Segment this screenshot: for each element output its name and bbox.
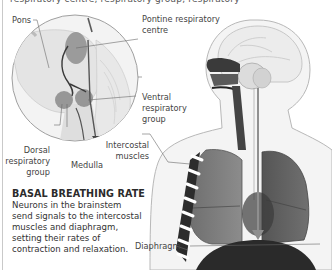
cropped-top-text: respiratory centre, respiratory group, r… [10,0,240,4]
brainstem-inset [10,15,138,142]
label-dorsal-line3: group [26,167,50,177]
label-pontine-respiratory-centre-line2: centre [142,25,168,35]
caption-text: Neurons in the brainstem send signals to… [12,200,144,255]
dorsal-respiratory-group-region [55,91,73,109]
label-dorsal-line1: Dorsal [24,145,50,155]
label-intercostal-line2: muscles [115,151,149,161]
label-dorsal-line2: respiratory [5,156,50,166]
caption-heading: BASAL BREATHING RATE [12,188,145,199]
label-ventral-line3: group [142,114,166,124]
label-medulla: Medulla [71,160,103,170]
label-pons: Pons [12,15,31,25]
label-ventral-line1: Ventral [142,92,171,102]
label-ventral-line2: respiratory [142,103,187,113]
label-pontine-respiratory-centre-line1: Pontine respiratory [142,14,220,24]
label-intercostal-line1: Intercostal [106,140,149,150]
